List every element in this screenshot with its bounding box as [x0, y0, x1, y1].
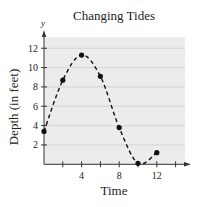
y-tick-label: 8 — [33, 81, 38, 92]
x-axis-label: Time — [101, 183, 128, 198]
y-tick-label: 6 — [33, 101, 38, 112]
data-point-marker — [41, 129, 46, 134]
tides-chart: 481224681012 Changing Tides y Depth (in … — [0, 0, 198, 207]
y-axis-label: Depth (in feet) — [6, 69, 21, 146]
data-point-marker — [98, 74, 103, 79]
chart-title: Changing Tides — [73, 8, 155, 23]
x-tick-label: 4 — [79, 170, 84, 181]
y-tick-label: 12 — [28, 43, 38, 54]
y-variable-label: y — [40, 18, 45, 28]
x-tick-label: 12 — [152, 170, 162, 181]
y-tick-label: 10 — [28, 62, 38, 73]
y-tick-label: 4 — [33, 120, 38, 131]
x-axis-arrow-icon — [184, 162, 191, 166]
y-axis-arrow-icon — [42, 30, 46, 37]
data-point-marker — [154, 150, 159, 155]
data-point-marker — [135, 161, 140, 166]
data-point-marker — [117, 125, 122, 130]
x-tick-label: 8 — [117, 170, 122, 181]
data-point-marker — [79, 52, 84, 57]
y-tick-label: 2 — [33, 139, 38, 150]
data-point-marker — [60, 78, 65, 83]
